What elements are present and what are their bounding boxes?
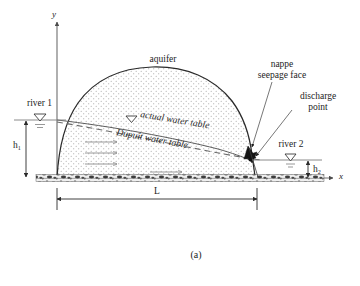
figure-caption: (a): [190, 249, 201, 261]
river-2-label: river 2: [278, 139, 303, 149]
dimension-L-group: L: [57, 186, 257, 210]
nappe-label: nappe: [271, 59, 294, 69]
nappe-leader-line: [252, 82, 272, 147]
dimension-h1-group: h1: [13, 121, 26, 177]
bedrock-gravel-layer: [36, 175, 324, 182]
seepage-face-label: seepage face: [258, 70, 306, 80]
river-1-label: river 1: [27, 98, 52, 108]
river-2-group: river 2: [252, 139, 322, 167]
discharge-label: discharge: [300, 91, 336, 101]
h2-subscript: 2: [318, 168, 321, 175]
river-1-group: river 1: [14, 98, 66, 127]
x-axis-label: x: [338, 171, 343, 181]
h2-label: h2: [313, 164, 321, 175]
aquifer-label: aquifer: [150, 54, 178, 64]
h1-label: h1: [13, 140, 21, 151]
discharge-point-label: point: [308, 102, 328, 112]
y-axis-label: y: [51, 9, 56, 19]
L-label: L: [154, 186, 160, 196]
aquifer-body-group: [57, 67, 255, 178]
aquifer-label-group: aquifer: [150, 54, 178, 64]
aquifer-region: [57, 67, 255, 178]
aquifer-diagram: y x actual water table Dupuit water tabl…: [0, 0, 360, 286]
h1-subscript: 1: [18, 144, 21, 151]
bedrock-layer-group: [36, 175, 324, 182]
figure-container: y x actual water table Dupuit water tabl…: [0, 0, 360, 286]
